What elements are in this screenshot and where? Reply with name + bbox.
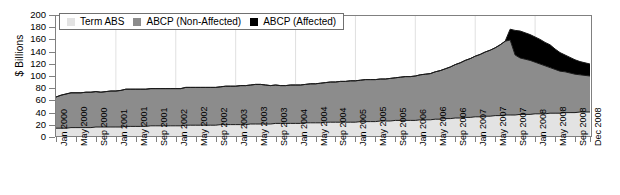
x-axis-tick-label: Dec 2008 — [594, 107, 603, 146]
x-axis-tick — [455, 137, 456, 142]
x-axis-tick — [535, 137, 536, 142]
x-axis-tick-label: May 2005 — [379, 106, 388, 146]
x-axis-tick — [56, 137, 57, 142]
y-axis-tick-label: 140 — [16, 47, 46, 56]
legend-item-label: ABCP (Affected) — [263, 16, 336, 27]
x-axis-tick-label: Jan 2000 — [60, 109, 69, 146]
y-axis-tick — [49, 125, 55, 126]
x-axis-tick-label: Sep 2006 — [459, 107, 468, 146]
x-axis-tick-label: May 2008 — [559, 106, 568, 146]
x-axis-tick-label: May 2003 — [260, 106, 269, 146]
x-axis-tick-label: Jan 2004 — [300, 109, 309, 146]
x-axis-tick-label: Sep 2004 — [339, 107, 348, 146]
x-axis-tick — [236, 137, 237, 142]
x-axis-tick — [555, 137, 556, 142]
x-axis-tick-label: Sep 2002 — [220, 107, 229, 146]
legend-item[interactable]: ABCP (Non-Affected) — [133, 16, 241, 27]
x-axis-tick — [196, 137, 197, 142]
y-axis-tick — [49, 15, 55, 16]
x-axis-tick-label: May 2004 — [320, 106, 329, 146]
y-axis-tick — [49, 27, 55, 28]
x-axis-tick — [575, 137, 576, 142]
x-axis-tick — [156, 137, 157, 142]
x-axis-tick — [256, 137, 257, 142]
x-axis-tick-label: May 2007 — [499, 106, 508, 146]
y-axis-tick — [49, 39, 55, 40]
x-axis-tick-label: Sep 2001 — [160, 107, 169, 146]
x-axis-tick-label: Jan 2001 — [120, 109, 129, 146]
x-axis-tick-label: Jan 2002 — [180, 109, 189, 146]
y-axis-tick — [49, 113, 55, 114]
y-axis-tick — [49, 64, 55, 65]
legend-item-label: Term ABS — [80, 16, 124, 27]
x-axis-tick — [415, 137, 416, 142]
y-axis-tick-label: 200 — [16, 10, 46, 19]
legend-item[interactable]: Term ABS — [67, 16, 124, 27]
y-axis-tick-label: 160 — [16, 34, 46, 43]
x-axis-tick-label: May 2000 — [80, 106, 89, 146]
legend-swatch-icon — [67, 18, 75, 26]
x-axis-tick — [335, 137, 336, 142]
y-axis-tick — [49, 100, 55, 101]
y-axis-tick — [49, 137, 55, 138]
x-axis-tick — [590, 137, 591, 142]
x-axis-tick — [76, 137, 77, 142]
y-axis-tick-label: 60 — [16, 95, 46, 104]
x-axis-tick-label: Jan 2008 — [539, 109, 548, 146]
y-axis-tick — [49, 76, 55, 77]
x-axis-tick-label: Sep 2007 — [519, 107, 528, 146]
legend-swatch-icon — [133, 18, 141, 26]
x-axis-tick-label: Sep 2008 — [579, 107, 588, 146]
x-axis-tick — [495, 137, 496, 142]
x-axis-tick — [116, 137, 117, 142]
x-axis-tick — [216, 137, 217, 142]
y-axis-tick-label: 180 — [16, 22, 46, 31]
legend-swatch-icon — [250, 18, 258, 26]
y-axis-tick-label: 40 — [16, 108, 46, 117]
x-axis-tick — [435, 137, 436, 142]
y-axis-tick-label: 0 — [16, 132, 46, 141]
x-axis-tick — [355, 137, 356, 142]
y-axis-tick-label: 120 — [16, 59, 46, 68]
x-axis-tick-label: Jan 2007 — [479, 109, 488, 146]
y-axis-tick-label: 100 — [16, 71, 46, 80]
chart-legend: Term ABSABCP (Non-Affected)ABCP (Affecte… — [59, 13, 344, 30]
legend-item[interactable]: ABCP (Affected) — [250, 16, 336, 27]
x-axis-tick — [375, 137, 376, 142]
x-axis-tick — [316, 137, 317, 142]
x-axis-tick — [395, 137, 396, 142]
x-axis-tick-label: Sep 2005 — [399, 107, 408, 146]
legend-item-label: ABCP (Non-Affected) — [146, 16, 241, 27]
x-axis-tick — [296, 137, 297, 142]
x-axis-tick — [176, 137, 177, 142]
x-axis-tick-label: Jan 2005 — [359, 109, 368, 146]
x-axis-tick-label: Jan 2006 — [419, 109, 428, 146]
x-axis-tick-label: May 2001 — [140, 106, 149, 146]
x-axis-tick-label: May 2002 — [200, 106, 209, 146]
x-axis-tick-label: May 2006 — [439, 106, 448, 146]
y-axis-tick-label: 80 — [16, 83, 46, 92]
x-axis-tick — [276, 137, 277, 142]
y-axis-tick — [49, 52, 55, 53]
x-axis-tick — [515, 137, 516, 142]
x-axis-tick — [96, 137, 97, 142]
y-axis-tick-label: 20 — [16, 120, 46, 129]
x-axis-tick-label: Sep 2000 — [100, 107, 109, 146]
x-axis-tick — [136, 137, 137, 142]
x-axis-tick — [475, 137, 476, 142]
x-axis-tick-label: Sep 2003 — [280, 107, 289, 146]
y-axis-tick — [49, 88, 55, 89]
x-axis-tick-label: Jan 2003 — [240, 109, 249, 146]
stacked-area-chart: $ Billions Term ABSABCP (Non-Affected)AB… — [0, 0, 620, 195]
